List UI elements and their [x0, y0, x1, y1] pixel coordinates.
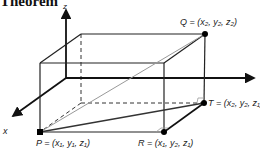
- point-Q-label: Q = (x₂, y₂, z₂): [180, 17, 237, 27]
- point-P-label: P = (x₁, y₁, z₁): [36, 138, 90, 148]
- point-R-label: R = (x₁, y₂, z₁): [138, 138, 193, 148]
- point-T-marker: [201, 100, 207, 106]
- hidden-edge-left-bottom: [40, 103, 81, 132]
- rectangular-box-diagram: z x Q = (x₂, y₂, z₂) T = (x₂, y₂, z₁) P …: [0, 0, 260, 148]
- diagonals: [40, 34, 205, 132]
- z-axis-label: z: [62, 2, 67, 11]
- point-R-marker: [161, 129, 167, 135]
- point-P-marker: [37, 129, 43, 135]
- x-axis-label: x: [2, 126, 8, 136]
- point-Q-marker: [202, 31, 208, 37]
- point-T-label: T = (x₂, y₂, z₁): [208, 98, 260, 108]
- segment-RT: [164, 103, 204, 132]
